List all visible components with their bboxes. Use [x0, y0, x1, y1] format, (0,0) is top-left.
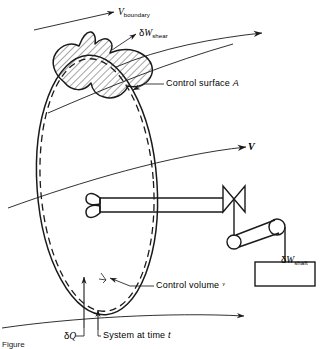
diagram-canvas	[0, 0, 328, 349]
delta-q-leader	[76, 328, 84, 336]
label-delta-q: δQ	[64, 331, 76, 342]
pulley-weight-assembly	[227, 219, 315, 286]
system-time-symbol: t	[168, 330, 171, 340]
streamline-middle	[8, 147, 246, 208]
control-surface-text: Control surface	[166, 78, 230, 88]
w-shaft-subscript: shaft	[294, 259, 308, 266]
v-boundary-symbol: V	[118, 7, 124, 17]
v-boundary-arrow	[34, 12, 114, 30]
spool-body	[223, 186, 234, 212]
figure-caption-text: Figure	[2, 340, 25, 349]
w-shear-subscript: shear	[152, 32, 168, 39]
label-w-shear: δWshear	[139, 28, 168, 39]
paddle-blade-lower	[86, 205, 100, 217]
label-control-volume: Control volume ᵛ	[156, 281, 225, 290]
control-surface-symbol: A	[233, 78, 239, 88]
figure-container: Vboundary δWshear Control surface A V δW…	[0, 0, 328, 349]
label-v-boundary: Vboundary	[118, 7, 150, 18]
system-time-leader	[98, 330, 101, 336]
label-system-at-time: System at time t	[103, 331, 171, 340]
streamline-bottom	[2, 315, 244, 328]
control-volume-tick	[99, 273, 106, 283]
control-volume-text: Control volume	[156, 280, 219, 290]
pulley-lower-left	[227, 235, 241, 249]
spool-pulley	[223, 186, 245, 236]
control-volume-symbol: ᵛ	[222, 280, 225, 290]
system-time-text: System at time	[103, 330, 165, 340]
velocity-symbol: V	[248, 141, 255, 152]
paddle-blade-upper	[86, 194, 100, 205]
delta-q-symbol: Q	[69, 331, 76, 341]
label-control-surface: Control surface A	[166, 79, 239, 88]
spool-body-right	[234, 186, 245, 212]
belt-lower	[239, 233, 279, 247]
label-velocity: V	[248, 142, 255, 152]
figure-caption: Figure	[2, 341, 25, 349]
label-w-shaft: δWshaft	[281, 255, 308, 266]
w-shear-leader	[112, 34, 136, 50]
v-boundary-subscript: boundary	[124, 11, 150, 18]
